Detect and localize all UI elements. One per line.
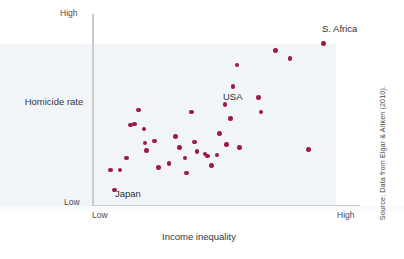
scatter-point: [321, 41, 326, 46]
scatter-point: [184, 171, 189, 176]
scatter-point: [228, 116, 233, 121]
scatter-point: [136, 108, 141, 113]
scatter-point: [237, 145, 242, 150]
scatter-point: [223, 102, 228, 107]
y-axis-line: [92, 14, 94, 206]
x-axis-title: Income inequality: [162, 231, 236, 242]
annotation-south-africa: S. Africa: [322, 23, 357, 34]
x-axis-tick-high: High: [337, 210, 354, 220]
chart-canvas: High Low Low High Homicide rate Income i…: [0, 0, 404, 259]
scatter-point: [224, 142, 229, 147]
scatter-point: [306, 147, 311, 152]
scatter-point: [256, 95, 261, 100]
scatter-point: [144, 148, 149, 153]
scatter-point: [192, 140, 197, 145]
source-credit: Source: Data from Elgar & Aitken (2010).: [378, 86, 387, 220]
x-axis-line: [92, 205, 360, 207]
y-axis-tick-high: High: [60, 8, 77, 18]
scatter-point: [173, 134, 178, 139]
x-axis-tick-low: Low: [92, 210, 108, 220]
scatter-point: [189, 110, 194, 115]
background-tint-left: [0, 44, 236, 206]
scatter-point: [273, 48, 278, 53]
scatter-point: [156, 165, 161, 170]
scatter-point: [288, 56, 293, 61]
annotation-usa: USA: [223, 91, 243, 102]
background-tint-right: [236, 44, 336, 206]
scatter-point: [152, 139, 157, 144]
scatter-point: [177, 145, 182, 150]
y-axis-title: Homicide rate: [22, 96, 86, 108]
scatter-point: [195, 149, 200, 154]
scatter-point: [217, 131, 222, 136]
scatter-point: [231, 84, 236, 89]
y-axis-tick-low: Low: [64, 197, 80, 207]
scatter-point: [124, 156, 129, 161]
scatter-point: [209, 163, 214, 168]
annotation-japan: Japan: [115, 188, 141, 199]
